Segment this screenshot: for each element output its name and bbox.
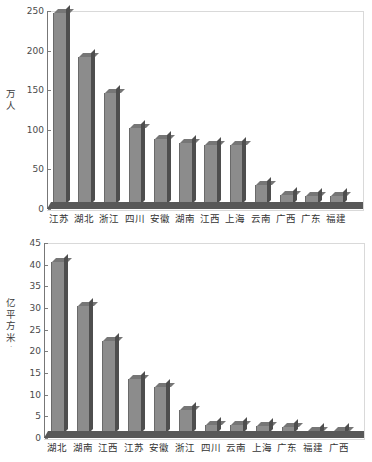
bar-top-face [206,421,226,425]
bar-top-face [256,181,276,185]
bar-chart-population: 万人 050100150200250 江苏湖北浙江四川安徽湖南江西上海云南广西广… [0,0,372,231]
x-tick-label: 江苏 [49,211,69,225]
y-tick-mark [45,330,48,331]
bar-side-face [318,188,322,204]
figure-page: 万人 050100150200250 江苏湖北浙江四川安徽湖南江西上海云南广西广… [0,0,372,462]
x-tick-label: 江苏 [124,440,144,454]
y-tick-mark [48,130,51,131]
bar-side-face [66,5,70,204]
y-tick-label: 20 [30,346,41,356]
y-tick-label: 10 [30,390,41,400]
y-tick-label: 150 [27,85,44,95]
x-tick-label: 广西 [276,211,296,225]
y-tick-label: 30 [30,303,41,313]
bar-side-face [89,298,93,433]
x-tick-label: 广东 [277,440,297,454]
bar-side-face [343,188,347,204]
y-tick-label: 45 [30,238,41,248]
bar-side-face [91,49,95,204]
bar-side-face [294,419,298,433]
bar-side-face [116,85,120,204]
x-tick-label: 湖北 [47,440,67,454]
bar-series-bottom [44,243,364,438]
bar-top-face [78,302,98,306]
y-tick-label: 100 [27,125,44,135]
bar-top-face [334,427,354,431]
x-tick-label: 湖南 [175,211,195,225]
x-tick-label: 福建 [303,440,323,454]
bar-side-face [293,187,297,204]
y-tick-mark [48,90,51,91]
bar [78,57,91,204]
bar-side-face [192,135,196,204]
y-tick-mark [45,373,48,374]
x-tick-label: 广西 [329,440,349,454]
bar [77,306,90,433]
bar-top-face [331,192,351,196]
bar-top-face [105,89,125,93]
y-tick-label: 15 [30,368,41,378]
x-tick-label: 浙江 [99,211,119,225]
bar-top-face [308,427,328,431]
bar-top-face [231,141,251,145]
bar-top-face [52,258,72,262]
y-tick-mark [45,351,48,352]
bar-side-face [166,379,170,433]
x-tick-label: 上海 [225,211,245,225]
x-tick-label: 江西 [98,440,118,454]
bar-top-face [257,422,277,426]
x-tick-label: 广东 [301,211,321,225]
x-tick-label: 安徽 [149,440,169,454]
y-axis-line [44,243,45,438]
y-axis-ticks-bottom: 051015202530354045 [11,231,41,448]
y-tick-label: 25 [30,325,41,335]
bar-top-face [54,9,74,13]
bar-top-face [130,124,150,128]
bar-top-face [231,421,251,425]
bar [154,139,167,204]
bar [104,93,117,204]
bar-side-face [269,418,273,433]
bar-series-top [47,11,363,209]
y-tick-mark [45,395,48,396]
y-axis-ticks-top: 050100150200250 [14,0,44,219]
bar-side-face [217,137,221,204]
bar [129,128,142,204]
bar-top-face [103,337,123,341]
y-axis-line [47,11,48,209]
bar-side-face [141,120,145,204]
bar-top-face [180,139,200,143]
y-tick-mark [48,209,51,210]
bar-top-face [155,135,175,139]
bar-top-face [155,383,175,387]
bar [102,341,115,433]
y-tick-mark [48,11,51,12]
bar [255,185,268,204]
bar-top-face [281,191,301,195]
x-tick-label: 四川 [201,440,221,454]
bar-side-face [217,417,221,433]
y-tick-label: 0 [35,433,41,443]
chart-floor [47,202,363,209]
y-tick-mark [45,416,48,417]
chart-floor [44,431,364,438]
x-tick-label: 江西 [200,211,220,225]
bar [154,387,167,433]
bar-top-face [180,406,200,410]
y-tick-label: 5 [35,411,41,421]
bar-side-face [267,177,271,204]
bar-side-face [167,131,171,204]
y-tick-label: 250 [27,6,44,16]
x-tick-label: 上海 [252,440,272,454]
bar-top-face [306,192,326,196]
bar [204,145,217,204]
x-tick-label: 云南 [251,211,271,225]
x-tick-label: 四川 [125,211,145,225]
y-tick-label: 0 [38,204,44,214]
bar-side-face [243,417,247,433]
bar-side-face [242,137,246,204]
y-tick-label: 35 [30,281,41,291]
bar [51,262,64,433]
bar-top-face [129,375,149,379]
bar [179,143,192,204]
